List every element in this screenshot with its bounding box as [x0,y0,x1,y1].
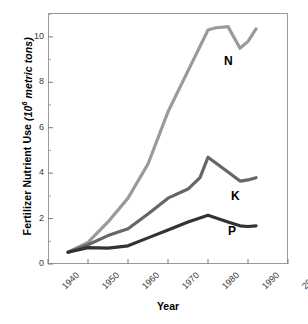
chart-canvas [0,0,308,324]
series-label-P: P [228,224,236,238]
figure: Fertilizer Nutrient Use (106 metric tons… [0,0,308,324]
series-label-N: N [224,54,233,68]
series-label-K: K [231,189,240,203]
